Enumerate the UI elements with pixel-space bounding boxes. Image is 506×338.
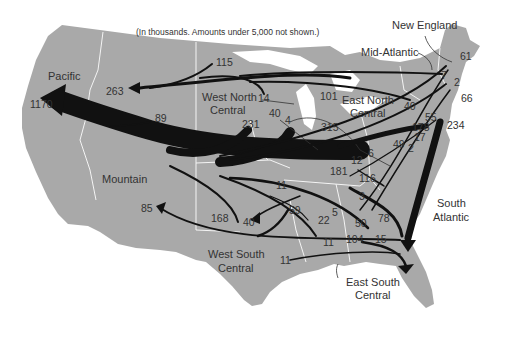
value-263: 263 <box>106 85 124 97</box>
value-2-ne: 2 <box>454 76 460 88</box>
value-12: 12 <box>351 154 363 166</box>
value-181: 181 <box>330 165 348 177</box>
region-mountain: Mountain <box>102 173 147 185</box>
value-50: 50 <box>355 217 367 229</box>
migration-flow-map: Pacific Mountain West North Central East… <box>0 0 506 338</box>
value-89: 89 <box>155 112 167 124</box>
value-116: 116 <box>359 172 376 184</box>
region-enc-2: Central <box>350 107 385 119</box>
value-11-north: 11 <box>276 179 287 191</box>
region-wnc-2: Central <box>210 104 245 116</box>
value-7: 7 <box>441 69 447 81</box>
value-6: 6 <box>368 147 374 159</box>
value-78: 78 <box>378 212 390 224</box>
leader-esc <box>337 264 339 278</box>
region-esc-2: Central <box>355 289 390 301</box>
value-17: 17 <box>414 131 426 143</box>
value-59: 59 <box>289 204 301 216</box>
value-66: 66 <box>461 92 473 104</box>
value-3: 3 <box>359 190 365 202</box>
value-1170: 1170 <box>30 98 53 110</box>
value-231: 231 <box>242 118 260 130</box>
region-enc-1: East North <box>342 94 394 106</box>
value-22: 22 <box>318 214 330 226</box>
region-wsc-2: Central <box>218 262 253 274</box>
value-234: 234 <box>447 119 465 131</box>
value-49: 49 <box>393 138 405 150</box>
region-pacific: Pacific <box>48 70 81 82</box>
region-wnc-1: West North <box>202 91 257 103</box>
region-sa-2: Atlantic <box>433 211 470 223</box>
value-11-esc: 11 <box>323 236 334 248</box>
value-61: 61 <box>460 50 472 62</box>
value-4: 4 <box>285 114 291 126</box>
value-11-gulf: 11 <box>280 254 291 266</box>
region-new-england: New England <box>392 19 457 31</box>
value-168: 168 <box>211 212 229 224</box>
region-mid-atlantic: Mid-Atlantic <box>361 46 419 58</box>
value-85: 85 <box>141 202 153 214</box>
value-2-ma: 2 <box>408 142 414 154</box>
value-101: 101 <box>320 90 338 102</box>
value-40-enc: 40 <box>404 100 416 112</box>
region-sa-1: South <box>437 197 466 209</box>
value-14: 14 <box>258 92 270 104</box>
value-104: 104 <box>346 233 364 245</box>
value-40-wsc: 40 <box>243 216 255 228</box>
value-40-wnc: 40 <box>269 107 281 119</box>
value-315: 315 <box>321 121 339 133</box>
region-wsc-1: West South <box>208 248 265 260</box>
value-115: 115 <box>216 56 233 68</box>
value-15: 15 <box>375 233 387 245</box>
map-note: (In thousands. Amounts under 5,000 not s… <box>136 27 320 37</box>
region-esc-1: East South <box>346 276 400 288</box>
value-5: 5 <box>332 206 338 218</box>
